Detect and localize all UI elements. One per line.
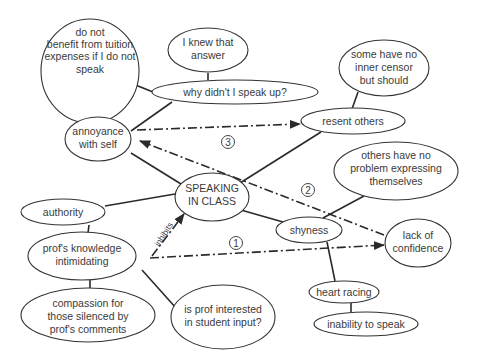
svg-text:2: 2	[305, 185, 311, 196]
relations	[137, 124, 384, 258]
svg-text:inability to speak: inability to speak	[327, 318, 405, 330]
relation-3-annoyance-to-resent	[137, 124, 300, 130]
svg-text:inner censor: inner censor	[355, 61, 413, 73]
edge-resent-speaking	[240, 132, 321, 183]
svg-text:heart racing: heart racing	[316, 286, 372, 298]
svg-text:benefit from tuition: benefit from tuition	[47, 38, 134, 50]
svg-text:prof's comments: prof's comments	[50, 323, 127, 335]
svg-text:themselves: themselves	[369, 175, 422, 187]
inhibits-label: inhibits	[152, 220, 175, 248]
node-lack-of-confidence: lack of confidence	[385, 219, 451, 267]
svg-text:shyness: shyness	[290, 224, 329, 236]
marker-1: 1	[230, 237, 243, 250]
svg-text:I knew that: I knew that	[183, 36, 234, 48]
svg-text:lack of: lack of	[403, 229, 433, 241]
node-compassion: compassion for those silenced by prof's …	[21, 288, 155, 342]
svg-text:speak: speak	[76, 63, 105, 75]
svg-text:why didn't I speak up?: why didn't I speak up?	[182, 86, 287, 98]
node-knew-answer: I knew that answer	[168, 28, 248, 72]
svg-text:3: 3	[225, 137, 231, 148]
svg-text:compassion for: compassion for	[52, 297, 124, 309]
svg-text:problem expressing: problem expressing	[350, 162, 442, 174]
node-heart-racing: heart racing	[309, 281, 379, 303]
edge-why-annoyance	[131, 102, 172, 131]
svg-text:do not: do not	[75, 26, 104, 38]
node-resent-others: resent others	[301, 108, 405, 134]
svg-text:expenses if I do not: expenses if I do not	[44, 50, 135, 62]
node-why-didnt-speak: why didn't I speak up?	[152, 80, 318, 104]
svg-text:those silenced by: those silenced by	[47, 310, 129, 322]
edge-annoyance-speaking	[131, 153, 181, 184]
node-inability-to-speak: inability to speak	[314, 312, 418, 336]
svg-text:authority: authority	[43, 206, 84, 218]
relation-1-prof-to-confidence	[150, 245, 384, 258]
svg-text:annoyance: annoyance	[72, 125, 124, 137]
node-prof-interested: is prof interested in student input?	[171, 285, 275, 349]
edge-authority-speaking	[105, 194, 175, 206]
node-authority: authority	[21, 199, 105, 225]
node-speaking-in-class: SPEAKING IN CLASS	[175, 173, 249, 221]
svg-text:with self: with self	[78, 138, 117, 150]
edge-speaking-shyness	[241, 210, 283, 222]
node-inner-censor: some have no inner censor but should	[339, 40, 429, 96]
edge-censor-resent	[352, 92, 358, 109]
node-prof-knowledge: prof's knowledge intimidating	[28, 232, 136, 280]
node-others-no-problem: others have no problem expressing themse…	[334, 142, 458, 200]
svg-text:some have no: some have no	[351, 48, 417, 60]
marker-2: 2	[302, 184, 315, 197]
svg-text:prof's knowledge: prof's knowledge	[43, 242, 122, 254]
svg-text:others have no: others have no	[361, 149, 431, 161]
svg-text:resent others: resent others	[322, 115, 383, 127]
svg-text:is prof interested: is prof interested	[184, 303, 262, 315]
svg-text:intimidating: intimidating	[55, 255, 108, 267]
svg-text:IN CLASS: IN CLASS	[188, 195, 236, 207]
svg-text:SPEAKING: SPEAKING	[185, 182, 239, 194]
node-annoyance: annoyance with self	[65, 117, 131, 161]
node-shyness: shyness	[276, 217, 342, 243]
svg-text:but should: but should	[360, 74, 409, 86]
svg-text:in student input?: in student input?	[184, 316, 261, 328]
concept-map-canvas: inhibits 3 2 1 do not benefit from tuiti…	[0, 0, 483, 362]
svg-text:answer: answer	[191, 49, 225, 61]
svg-text:1: 1	[233, 238, 239, 249]
svg-text:confidence: confidence	[393, 242, 444, 254]
marker-3: 3	[222, 136, 235, 149]
node-tuition: do not benefit from tuition expenses if …	[41, 19, 139, 123]
